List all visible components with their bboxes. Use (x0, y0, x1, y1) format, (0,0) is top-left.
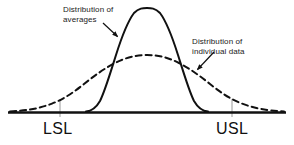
usl-label: USL (216, 120, 248, 138)
lsl-label: LSL (43, 120, 73, 138)
averages-pointer-arrow (103, 23, 118, 37)
averages-annotation-line1: Distribution of (63, 5, 113, 15)
individual-data-annotation-line2: individual data (192, 47, 245, 57)
individual-data-annotation-label: Distribution of individual data (192, 37, 245, 56)
averages-annotation-line2: averages (63, 15, 113, 25)
individual-data-annotation-line1: Distribution of (192, 37, 245, 47)
distribution-comparison-figure: Distribution of averages Distribution of… (0, 0, 294, 145)
averages-annotation-label: Distribution of averages (63, 5, 113, 24)
individual-data-curve (10, 55, 284, 111)
